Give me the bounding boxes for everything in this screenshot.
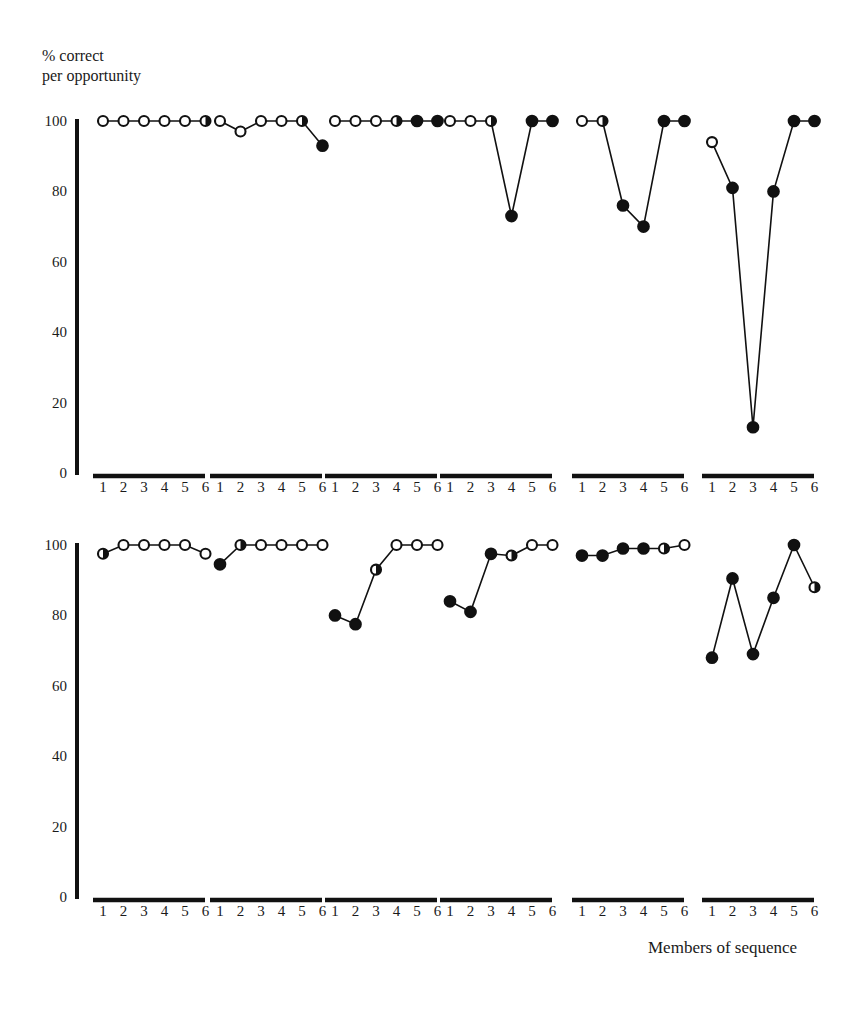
x-tick-label: 1 xyxy=(708,479,716,495)
y-tick-label: 0 xyxy=(60,889,68,905)
data-point-open xyxy=(680,540,690,550)
data-point-filled xyxy=(618,200,629,211)
x-tick-label: 2 xyxy=(237,903,245,919)
x-tick-label: 4 xyxy=(393,903,401,919)
x-tick-label: 3 xyxy=(140,479,148,495)
data-point-filled xyxy=(445,596,456,607)
x-tick-label: 6 xyxy=(434,903,442,919)
series-line xyxy=(450,545,553,612)
x-tick-label: 1 xyxy=(216,479,224,495)
x-tick-label: 2 xyxy=(120,903,128,919)
data-point-open xyxy=(160,540,170,550)
y-tick-label: 20 xyxy=(52,819,67,835)
panel-series-r1-c6 xyxy=(707,116,820,433)
data-point-open xyxy=(351,116,361,126)
panel-series-r1-c4 xyxy=(445,116,558,222)
x-tick-label: 3 xyxy=(749,479,757,495)
x-tick-label: 1 xyxy=(99,479,107,495)
panel-series-r2-c3 xyxy=(330,540,443,630)
data-point-filled xyxy=(727,183,738,194)
data-point-open xyxy=(277,540,287,550)
x-tick-label: 4 xyxy=(278,479,286,495)
x-tick-label: 5 xyxy=(298,479,306,495)
data-point-open xyxy=(371,116,381,126)
x-tick-label: 5 xyxy=(660,903,668,919)
data-point-filled xyxy=(618,543,629,554)
data-point-filled xyxy=(679,116,690,127)
data-point-filled xyxy=(789,540,800,551)
x-tick-label: 6 xyxy=(811,479,819,495)
x-tick-label: 5 xyxy=(298,903,306,919)
data-point-filled xyxy=(317,140,328,151)
series-line xyxy=(450,121,553,216)
panel-series-r2-c5 xyxy=(577,540,690,561)
panel-series-r2-c2 xyxy=(215,540,328,570)
x-tick-label: 3 xyxy=(619,903,627,919)
y-tick-label: 100 xyxy=(45,113,68,129)
x-tick-label: 3 xyxy=(372,903,380,919)
data-point-open xyxy=(256,540,266,550)
series-line xyxy=(582,121,685,227)
data-point-filled xyxy=(748,422,759,433)
data-point-filled xyxy=(638,543,649,554)
x-tick-label: 3 xyxy=(140,903,148,919)
x-tick-label: 6 xyxy=(681,903,689,919)
x-tick-label: 2 xyxy=(599,479,607,495)
x-tick-label: 1 xyxy=(708,903,716,919)
x-tick-label: 4 xyxy=(278,903,286,919)
data-point-filled xyxy=(638,221,649,232)
x-tick-label: 2 xyxy=(467,479,475,495)
series-line xyxy=(712,121,815,427)
data-point-open xyxy=(215,116,225,126)
x-tick-label: 2 xyxy=(729,903,737,919)
data-point-filled xyxy=(506,211,517,222)
panel-series-r1-c5 xyxy=(577,116,690,232)
x-tick-label: 5 xyxy=(528,903,536,919)
series-line xyxy=(712,545,815,658)
x-tick-label: 3 xyxy=(257,903,265,919)
series-line xyxy=(335,545,438,624)
data-point-open xyxy=(297,540,307,550)
data-point-filled xyxy=(768,186,779,197)
data-point-open xyxy=(445,116,455,126)
data-point-open xyxy=(119,540,129,550)
panel-series-r2-c4 xyxy=(445,540,558,617)
x-tick-label: 1 xyxy=(578,479,586,495)
x-tick-label: 5 xyxy=(528,479,536,495)
x-tick-label: 2 xyxy=(599,903,607,919)
panel-series-r1-c3 xyxy=(330,116,443,127)
y-tick-label: 80 xyxy=(52,607,67,623)
x-tick-label: 1 xyxy=(446,903,454,919)
data-point-filled xyxy=(707,652,718,663)
x-tick-label: 2 xyxy=(237,479,245,495)
x-tick-label: 2 xyxy=(467,903,475,919)
x-tick-label: 5 xyxy=(413,479,421,495)
axis-group-row-1: 0204060801001234561234561234561234561234… xyxy=(45,113,819,495)
x-tick-label: 4 xyxy=(161,479,169,495)
x-tick-label: 1 xyxy=(446,479,454,495)
x-tick-label: 5 xyxy=(181,903,189,919)
data-point-filled xyxy=(748,649,759,660)
data-point-open xyxy=(527,540,537,550)
data-point-filled xyxy=(659,116,670,127)
data-point-filled xyxy=(486,549,497,560)
x-tick-label: 1 xyxy=(99,903,107,919)
data-point-filled xyxy=(768,593,779,604)
data-point-open xyxy=(433,540,443,550)
data-point-open xyxy=(318,540,328,550)
x-tick-label: 5 xyxy=(181,479,189,495)
data-point-filled xyxy=(465,607,476,618)
x-tick-label: 6 xyxy=(811,903,819,919)
x-tick-label: 6 xyxy=(319,479,327,495)
x-tick-label: 5 xyxy=(660,479,668,495)
data-point-filled xyxy=(789,116,800,127)
data-point-open xyxy=(180,540,190,550)
chart-plot-area: 0204060801001234561234561234561234561234… xyxy=(0,0,855,1014)
x-axis-label: Members of sequence xyxy=(648,938,797,958)
x-tick-label: 6 xyxy=(202,903,210,919)
y-tick-label: 60 xyxy=(52,678,67,694)
y-tick-label: 60 xyxy=(52,254,67,270)
x-tick-label: 6 xyxy=(434,479,442,495)
data-point-filled xyxy=(527,116,538,127)
x-tick-label: 2 xyxy=(352,903,360,919)
